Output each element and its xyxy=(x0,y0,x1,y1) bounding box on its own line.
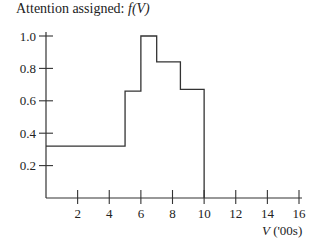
x-axis-label: V ('00s) xyxy=(262,223,302,239)
x-tick-label: 2 xyxy=(74,206,81,221)
y-tick-label: 0.8 xyxy=(20,61,36,76)
x-axis-unit: ('00s) xyxy=(270,223,302,238)
axes xyxy=(46,32,302,198)
x-tick-label: 12 xyxy=(229,206,242,221)
x-tick-label: 4 xyxy=(106,206,113,221)
step-line-series xyxy=(46,36,204,198)
x-tick-label: 16 xyxy=(293,206,307,221)
step-chart: 0.20.40.60.81.0 246810121416 xyxy=(0,0,318,249)
y-tick-label: 0.2 xyxy=(20,158,36,173)
y-tick-label: 0.6 xyxy=(20,93,37,108)
x-tick-label: 6 xyxy=(138,206,145,221)
x-tick-label: 14 xyxy=(261,206,275,221)
y-axis-ticks: 0.20.40.60.81.0 xyxy=(20,29,53,174)
y-tick-label: 0.4 xyxy=(20,126,37,141)
x-tick-label: 10 xyxy=(198,206,211,221)
x-axis-ticks: 246810121416 xyxy=(74,190,306,221)
y-tick-label: 1.0 xyxy=(20,29,36,44)
x-axis-variable: V xyxy=(262,223,270,238)
x-tick-label: 8 xyxy=(169,206,176,221)
